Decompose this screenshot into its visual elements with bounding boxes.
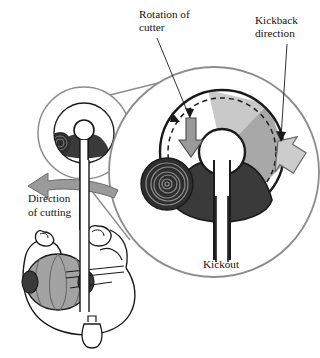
label-rotation-line2: cutter xyxy=(139,21,165,33)
inset-hub xyxy=(74,120,94,140)
operator-right-hand xyxy=(87,226,111,246)
label-kickback-line2: direction xyxy=(255,27,295,39)
label-kickout: Kickout xyxy=(203,258,240,270)
tool-motor-end xyxy=(82,324,102,348)
pole-shaft-lower xyxy=(80,160,89,312)
label-cutting-line2: of cutting xyxy=(28,206,72,218)
label-kickback-line1: Kickback xyxy=(255,14,298,26)
tool-collar xyxy=(88,316,96,322)
magnified-view xyxy=(109,67,319,277)
cut-log xyxy=(141,158,193,210)
kickback-safety-diagram: Rotation of cutter Kickback direction Di… xyxy=(0,0,320,358)
label-cutting-line1: Direction xyxy=(28,192,71,204)
label-rotation-line1: Rotation of xyxy=(139,8,190,20)
ear-protector-left xyxy=(22,271,38,293)
